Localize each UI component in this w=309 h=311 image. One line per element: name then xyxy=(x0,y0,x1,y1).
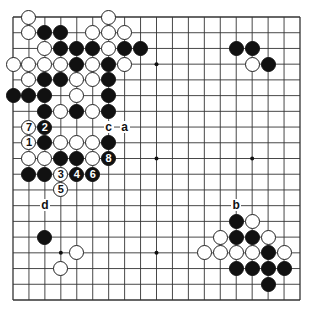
black-stone xyxy=(261,261,276,276)
black-stone xyxy=(117,41,132,56)
black-stone xyxy=(37,230,52,245)
white-stone xyxy=(37,57,52,72)
black-stone xyxy=(229,261,244,276)
white-stone xyxy=(85,57,100,72)
white-stone xyxy=(101,41,116,56)
black-stone xyxy=(101,57,116,72)
point-label-c: c xyxy=(104,121,114,133)
white-stone xyxy=(53,57,68,72)
black-stone xyxy=(69,57,84,72)
black-stone-move-6: 6 xyxy=(85,167,100,182)
white-stone xyxy=(245,214,260,229)
black-stone xyxy=(69,104,84,119)
black-stone xyxy=(245,41,260,56)
white-stone-move-3: 3 xyxy=(53,167,68,182)
white-stone xyxy=(261,230,276,245)
black-stone xyxy=(245,230,260,245)
black-stone xyxy=(133,41,148,56)
white-stone xyxy=(117,57,132,72)
black-stone xyxy=(229,41,244,56)
white-stone xyxy=(245,245,260,260)
point-label-d: d xyxy=(40,199,50,211)
star-point xyxy=(155,62,159,66)
black-stone xyxy=(277,261,292,276)
star-point xyxy=(59,251,63,255)
white-stone xyxy=(101,10,116,25)
black-stone xyxy=(261,245,276,260)
black-stone xyxy=(245,261,260,276)
white-stone xyxy=(229,245,244,260)
white-stone-move-7: 7 xyxy=(21,120,36,135)
black-stone xyxy=(229,230,244,245)
black-stone xyxy=(261,57,276,72)
black-stone xyxy=(6,88,21,103)
black-stone xyxy=(261,277,276,292)
black-stone-move-4: 4 xyxy=(69,167,84,182)
white-stone xyxy=(277,245,292,260)
point-label-b: b xyxy=(231,199,241,211)
white-stone xyxy=(85,104,100,119)
black-stone xyxy=(101,104,116,119)
white-stone xyxy=(21,10,36,25)
black-stone xyxy=(229,214,244,229)
star-point xyxy=(250,157,254,161)
black-stone-move-2: 2 xyxy=(37,120,52,135)
white-stone xyxy=(6,57,21,72)
go-board: 72183465 cadb xyxy=(0,0,309,311)
point-label-a: a xyxy=(120,121,130,133)
star-point xyxy=(155,251,159,255)
star-point xyxy=(155,157,159,161)
white-stone xyxy=(245,57,260,72)
white-stone xyxy=(213,230,228,245)
